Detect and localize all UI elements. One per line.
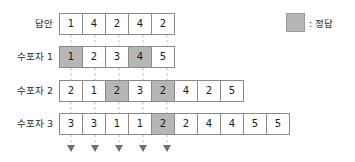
row-label-student-3: 수포자 3 [0, 113, 53, 135]
down-arrow-icon [67, 145, 75, 152]
down-arrow-icon [91, 145, 99, 152]
down-arrow-icon [115, 145, 123, 152]
down-arrow-icon [139, 145, 147, 152]
row-label-student-1: 수포자 1 [0, 46, 53, 68]
down-arrow-icon [163, 145, 171, 152]
legend: : 정답 [286, 13, 333, 32]
row-label-answer-key: 답안 [0, 13, 53, 35]
row-label-student-2: 수포자 2 [0, 80, 53, 102]
comparison-diagram: 답안 14242 수포자 1 12345 수포자 2 21232425 수포자 … [0, 0, 355, 162]
legend-swatch-correct [286, 13, 305, 32]
legend-label-correct: : 정답 [309, 16, 333, 30]
